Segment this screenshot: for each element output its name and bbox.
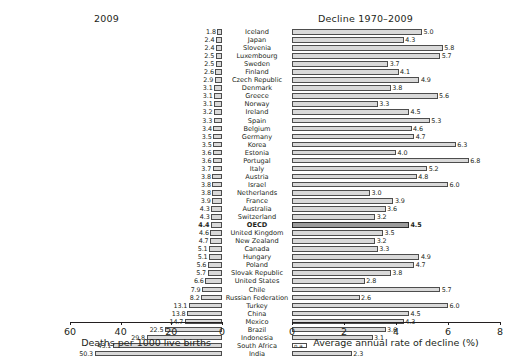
bar-right-value: 5.2 [429,165,439,173]
bar-right-value: 3.0 [372,189,382,197]
chart-row: 3.9France3.9 [0,197,507,205]
chart-row: 3.5Germany4.7 [0,133,507,141]
category-label: Finland [224,68,290,76]
bar-left-value: 5.6 [196,261,206,269]
bar-right-value: 4.0 [398,149,408,157]
chart-row: 4.4OECD4.5 [0,221,507,229]
bar-right-value: 6.3 [457,141,467,149]
bar-right [292,174,417,180]
category-label: Estonia [224,149,290,157]
category-label: Russian Federation [224,294,290,302]
left-bar-cell: 4.7 [0,237,222,245]
bar-right [292,311,409,317]
right-bar-cell: 3.5 [292,229,500,237]
bar-left-value: 3.8 [201,173,211,181]
bar-left-value: 3.5 [202,141,212,149]
bar-left-value: 4.4 [198,221,209,229]
bar-left-value: 3.6 [202,157,212,165]
category-label: Greece [224,92,290,100]
bar-right-value: 4.7 [416,133,426,141]
category-label: Switzerland [224,213,290,221]
chart-row: 3.1Denmark3.8 [0,84,507,92]
bar-left [210,230,222,236]
left-bar-cell: 3.9 [0,197,222,205]
right-bar-cell: 4.9 [292,253,500,261]
bar-left-value: 2.4 [205,44,215,52]
bar-left [214,93,222,99]
bar-left [214,118,222,124]
left-bar-cell: 2.9 [0,76,222,84]
bar-left [209,246,222,252]
bar-left [213,142,222,148]
category-label: Portugal [224,157,290,165]
bar-right-value: 3.9 [395,197,405,205]
bar-left-value: 3.1 [203,84,213,92]
bar-right-value: 3.3 [379,100,389,108]
bar-left [210,238,222,244]
category-label: United Kingdom [224,229,290,237]
left-bar-cell: 3.8 [0,173,222,181]
right-bar-cell: 6.0 [292,302,500,310]
category-label: China [224,310,290,318]
chart-row: 13.1Turkey6.0 [0,302,507,310]
bar-right [292,287,440,293]
axis-tick-label: 6 [445,326,451,337]
axis-tick-label: 40 [115,326,127,337]
chart-row: 5.1Canada3.3 [0,245,507,253]
bar-left [212,198,222,204]
bar-right [292,190,370,196]
chart-row: 5.6Poland4.7 [0,261,507,269]
right-bar-cell: 4.6 [292,125,500,133]
chart-row: 3.1Norway3.3 [0,100,507,108]
chart-row: 2.4Japan4.3 [0,36,507,44]
left-bar-cell: 3.1 [0,100,222,108]
left-bar-cell: 50.3 [0,350,222,358]
chart-row: 1.8Iceland5.0 [0,28,507,36]
bar-left [213,158,222,164]
category-label: Austria [224,173,290,181]
bar-left-value: 1.8 [206,28,216,36]
bar-left [216,45,222,51]
chart-row: 2.5Luxembourg5.7 [0,52,507,60]
bar-right-value: 6.8 [470,157,480,165]
left-bar-cell: 5.6 [0,261,222,269]
right-bar-cell: 3.0 [292,189,500,197]
bar-left-value: 5.1 [198,253,208,261]
category-label: Poland [224,261,290,269]
bar-left [213,150,222,156]
bar-left [216,37,222,43]
right-bar-cell: 2.6 [292,294,500,302]
chart-row: 2.4Slovenia5.8 [0,44,507,52]
bar-right [292,198,393,204]
right-bar-cell: 4.7 [292,133,500,141]
right-bar-cell: 4.1 [292,68,500,76]
left-bar-cell: 2.6 [0,68,222,76]
bar-left [213,126,222,132]
bar-left [95,351,222,357]
bar-left-value: 2.5 [204,52,214,60]
left-bar-cell: 2.5 [0,52,222,60]
axis-tick-label: 20 [165,326,177,337]
bar-left-value: 50.3 [79,350,93,358]
left-bar-cell: 5.1 [0,253,222,261]
category-label: Italy [224,165,290,173]
bar-right-value: 3.8 [392,84,402,92]
chart-row: 13.8China4.5 [0,310,507,318]
left-bar-cell: 3.8 [0,189,222,197]
bar-right [292,101,378,107]
axis-tick-label: 8 [497,326,503,337]
bar-right [292,303,448,309]
axis-tick-label: 2 [341,326,347,337]
chart-rows: 1.8Iceland5.02.4Japan4.32.4Slovenia5.82.… [0,28,507,358]
right-bar-cell: 3.3 [292,100,500,108]
bar-left [212,182,222,188]
bar-left [208,262,222,268]
bar-right [292,254,419,260]
right-bar-cell: 6.8 [292,157,500,165]
category-label: Australia [224,205,290,213]
bar-right-value: 5.0 [424,28,434,36]
bar-left-value: 13.8 [172,310,186,318]
bar-right [292,29,422,35]
right-bar-cell: 5.3 [292,117,500,125]
right-bar-cell: 4.8 [292,173,500,181]
